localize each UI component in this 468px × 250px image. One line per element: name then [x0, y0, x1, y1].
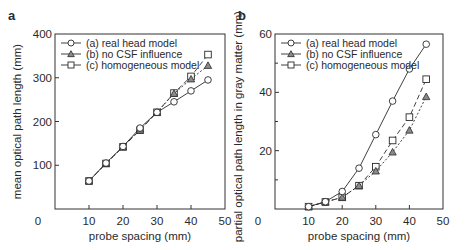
y-tick-label: 400 [33, 28, 52, 40]
x-tick-label: 50 [437, 215, 450, 227]
y-tick-label: 200 [33, 116, 52, 128]
panel-label: a [8, 8, 16, 23]
x-tick-label: 30 [369, 215, 382, 227]
square-marker [389, 137, 396, 144]
square-marker [68, 62, 74, 68]
square-marker [205, 51, 212, 58]
circle-marker [171, 99, 178, 106]
circle-marker [68, 40, 74, 46]
x-tick-label: 40 [185, 215, 198, 227]
circle-marker [305, 203, 312, 210]
triangle-marker [204, 62, 211, 69]
x-tick-label: 10 [83, 215, 96, 227]
y-tick-label: 20 [259, 145, 272, 157]
circle-marker [322, 198, 329, 205]
triangle-marker [423, 93, 430, 100]
circle-marker [373, 131, 380, 138]
y-axis-label: mean optical path length (mm) [11, 44, 23, 199]
circle-marker [103, 160, 110, 167]
chart-canvas: a01020304050100200300400probe spacing (m… [0, 0, 468, 250]
x-tick-label: 30 [151, 215, 164, 227]
chart-panel-b: b01020304050204060probe spacing (mm)part… [232, 8, 449, 242]
circle-marker [423, 41, 430, 48]
square-marker [406, 114, 413, 121]
y-tick-label: 300 [33, 72, 52, 84]
circle-marker [86, 178, 93, 185]
circle-marker [120, 143, 127, 150]
x-tick-label: 20 [117, 215, 130, 227]
x-tick-label: 40 [403, 215, 416, 227]
x-tick-label: 20 [336, 215, 349, 227]
legend: (a) real head model(b) no CSF influence(… [61, 37, 199, 71]
circle-marker [205, 77, 212, 84]
square-marker [423, 76, 430, 83]
circle-marker [339, 188, 346, 195]
y-axis-label: partial optical path length in gray matt… [232, 11, 244, 243]
triangle-marker [406, 127, 413, 134]
figure: a01020304050100200300400probe spacing (m… [0, 0, 468, 250]
x-axis-label: probe spacing (mm) [308, 230, 410, 242]
series-2 [305, 76, 429, 210]
triangle-marker [389, 148, 396, 155]
x-tick-label: 10 [302, 215, 315, 227]
legend-label: (c) homogeneous model [306, 59, 419, 71]
x-tick-label: 0 [255, 215, 261, 227]
circle-marker [288, 40, 294, 46]
circle-marker [154, 109, 161, 116]
legend: (a) real head model(b) no CSF influence(… [281, 37, 419, 71]
x-axis-label: probe spacing (mm) [89, 230, 191, 242]
chart-panel-a: a01020304050100200300400probe spacing (m… [8, 8, 231, 242]
circle-marker [389, 98, 396, 105]
square-marker [288, 62, 294, 68]
y-tick-label: 100 [33, 159, 52, 171]
circle-marker [188, 88, 195, 95]
series-0 [86, 77, 212, 185]
y-tick-label: 40 [259, 86, 272, 98]
x-tick-label: 50 [219, 215, 232, 227]
series-line [309, 79, 427, 206]
circle-marker [356, 165, 363, 172]
circle-marker [137, 125, 144, 132]
legend-label: (c) homogeneous model [86, 59, 199, 71]
y-tick-label: 60 [259, 28, 272, 40]
x-tick-label: 0 [35, 215, 41, 227]
